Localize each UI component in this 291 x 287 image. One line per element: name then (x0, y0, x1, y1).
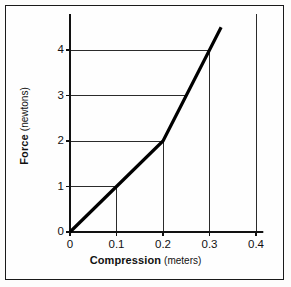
y-axis-title: Force (newtons) (18, 56, 30, 196)
x-axis-title-unit: (meters) (164, 255, 201, 266)
x-axis-title: Compression (meters) (0, 254, 291, 266)
y-tick-label: 3 (48, 90, 64, 102)
y-tick-label: 0 (48, 226, 64, 238)
x-tick-label: 0.2 (155, 239, 171, 251)
x-tick-label: 0.1 (109, 239, 125, 251)
y-axis-title-unit: (newtons) (19, 87, 30, 131)
force-compression-chart-figure: 00.10.20.30.401234 Compression (meters) … (0, 0, 291, 287)
x-axis-title-main: Compression (90, 254, 161, 266)
y-tick-label: 2 (48, 135, 64, 147)
y-axis-title-main: Force (18, 134, 30, 164)
horizontal-guide-lines (70, 50, 210, 187)
y-tick-label: 1 (48, 181, 64, 193)
axis-lines (70, 14, 263, 232)
data-series-lines (70, 27, 221, 232)
x-tick-label: 0 (67, 239, 73, 251)
y-tick-label: 4 (48, 44, 64, 56)
data-series-line (70, 27, 221, 232)
x-tick-label: 0.4 (248, 239, 264, 251)
x-tick-label: 0.3 (202, 239, 218, 251)
vertical-guide-lines (117, 14, 257, 232)
